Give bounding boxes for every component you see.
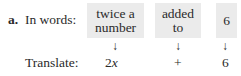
phrase-box-six: 6	[216, 3, 237, 38]
down-arrow-icon: ↓	[175, 40, 181, 52]
translation-2x: 2x	[105, 55, 118, 71]
translation-plus: +	[174, 55, 182, 71]
phrase-line: added	[162, 7, 194, 21]
in-words-label: In words:	[25, 12, 76, 28]
phrase-line: number	[95, 21, 136, 35]
phrase-line: twice a	[95, 7, 136, 21]
phrase-line: 6	[223, 14, 230, 28]
phrase-box-twice-a-number: twice a number	[87, 3, 144, 38]
phrase-box-added-to: added to	[155, 3, 201, 38]
phrase-line: to	[162, 21, 194, 35]
coefficient: 2	[105, 55, 112, 70]
variable: x	[112, 55, 118, 70]
translate-label: Translate:	[25, 55, 79, 71]
down-arrow-icon: ↓	[112, 40, 118, 52]
down-arrow-icon: ↓	[222, 40, 228, 52]
translation-six: 6	[222, 55, 229, 71]
problem-label: a.	[8, 12, 18, 28]
